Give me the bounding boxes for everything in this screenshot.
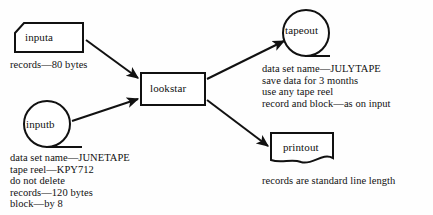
caption-line: tape reel—KPY712 [10, 164, 130, 176]
caption-line: data set name—JULYTAPE [262, 63, 391, 75]
caption-printout: records are standard line length [262, 175, 395, 187]
edge-inputa-to-lookstar [86, 40, 138, 78]
node-label-inputa: inputa [25, 31, 53, 43]
caption-line: save data for 3 months [262, 75, 391, 87]
caption-tapeout: data set name—JULYTAPEsave data for 3 mo… [262, 63, 391, 109]
edge-lookstar-to-printout [207, 100, 268, 146]
node-label-lookstar: lookstar [150, 82, 186, 94]
node-label-printout: printout [283, 141, 319, 153]
caption-line: block—by 8 [10, 198, 130, 210]
caption-inputb: data set name—JUNETAPEtape reel—KPY712do… [10, 152, 130, 210]
caption-line: records—120 bytes [10, 187, 130, 199]
node-label-tapeout: tapeout [285, 24, 318, 36]
caption-line: records are standard line length [262, 175, 395, 187]
caption-line: use any tape reel [262, 86, 391, 98]
caption-line: do not delete [10, 175, 130, 187]
edge-inputb-to-lookstar [72, 99, 138, 121]
caption-line: records—80 bytes [10, 59, 88, 71]
caption-inputa: records—80 bytes [10, 59, 88, 71]
caption-line: data set name—JUNETAPE [10, 152, 130, 164]
caption-line: record and block—as on input [262, 98, 391, 110]
node-label-inputb: inputb [26, 118, 55, 130]
data-flow-diagram: inputa inputb lookstar tapeout printout … [0, 0, 433, 215]
